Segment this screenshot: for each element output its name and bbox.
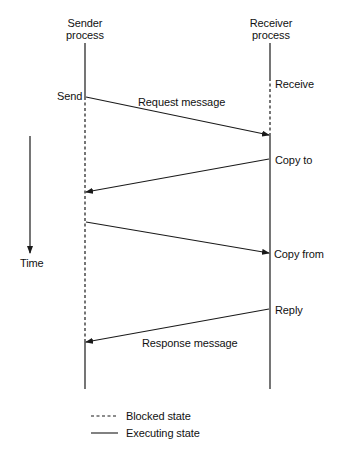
response-message-label: Response message: [142, 337, 238, 349]
receiver-label-line1: Receiver: [236, 17, 306, 29]
sender-process-label: Sender process: [55, 17, 115, 41]
receiver-label-line2: process: [236, 29, 306, 41]
sender-label-line2: process: [55, 29, 115, 41]
receive-event-label: Receive: [275, 78, 314, 90]
copy-from-arrow: [86, 222, 269, 253]
request-message-label: Request message: [138, 96, 225, 108]
receiver-process-label: Receiver process: [236, 17, 306, 41]
sequence-diagram-canvas: [0, 0, 338, 459]
sender-label-line1: Sender: [55, 17, 115, 29]
copy-from-event-label: Copy from: [274, 248, 324, 260]
copy-to-arrow: [86, 159, 269, 192]
legend-executing-label: Executing state: [126, 427, 200, 439]
copy-to-event-label: Copy to: [275, 154, 312, 166]
send-event-label: Send: [57, 90, 82, 102]
time-axis-label: Time: [20, 257, 44, 269]
legend-blocked-label: Blocked state: [126, 410, 191, 422]
reply-event-label: Reply: [275, 304, 303, 316]
